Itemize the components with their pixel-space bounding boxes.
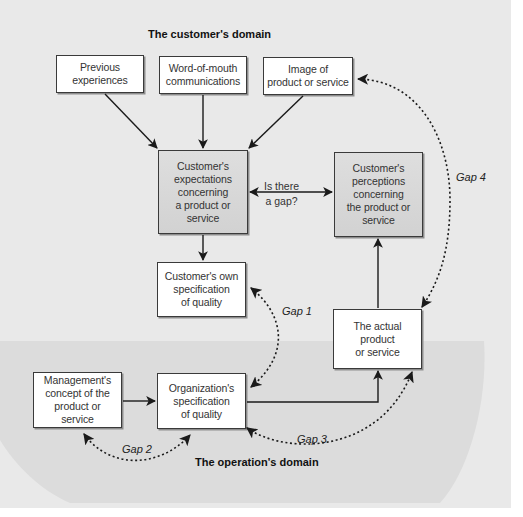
operation-domain-title: The operation's domain bbox=[195, 456, 319, 468]
box-text: or service bbox=[353, 346, 401, 359]
gap-4-label: Gap 4 bbox=[456, 171, 486, 183]
box-text: product or service bbox=[37, 400, 118, 426]
box-text: concerning bbox=[347, 188, 410, 201]
box-text: specification bbox=[169, 395, 234, 408]
customer-perceptions-box: Customer's perceptions concerning the pr… bbox=[334, 152, 423, 237]
image-of-product-box: Image of product or service bbox=[263, 57, 353, 95]
actual-product-box: The actual product or service bbox=[333, 309, 422, 369]
gap-3-label: Gap 3 bbox=[297, 433, 327, 445]
box-text: the product or bbox=[347, 201, 410, 214]
box-text: Previous bbox=[72, 61, 128, 74]
box-text: concerning bbox=[174, 186, 232, 199]
box-text: concept of the bbox=[37, 387, 118, 400]
gap-model-diagram: The customer's domain The operation's do… bbox=[0, 0, 523, 517]
box-text: of quality bbox=[169, 408, 234, 421]
box-text: product or service bbox=[267, 76, 349, 89]
box-text: The actual bbox=[353, 320, 401, 333]
customer-domain-title: The customer's domain bbox=[148, 28, 271, 40]
is-there-a-gap-label: Is there a gap? bbox=[264, 179, 299, 209]
previous-experiences-box: Previous experiences bbox=[56, 55, 144, 93]
customer-own-specification-box: Customer's own specification of quality bbox=[157, 262, 246, 317]
box-text: Customer's bbox=[174, 160, 232, 173]
management-concept-box: Management's concept of the product or s… bbox=[33, 372, 122, 428]
box-text: a product or bbox=[174, 199, 232, 212]
gap-1-label: Gap 1 bbox=[282, 305, 312, 317]
word-of-mouth-box: Word-of-mouth communications bbox=[159, 56, 247, 94]
box-text: perceptions bbox=[347, 175, 410, 188]
box-text: Management's bbox=[37, 374, 118, 387]
gap-2-label: Gap 2 bbox=[122, 443, 152, 455]
customer-expectations-box: Customer's expectations concerning a pro… bbox=[158, 150, 248, 234]
box-text: specification bbox=[165, 283, 239, 296]
box-text: Word-of-mouth bbox=[166, 62, 240, 75]
box-text: product bbox=[353, 333, 401, 346]
question-line-1: Is there bbox=[264, 179, 299, 194]
organization-specification-box: Organization's specification of quality bbox=[157, 373, 246, 429]
question-line-2: a gap? bbox=[264, 194, 299, 209]
box-text: Customer's own bbox=[165, 270, 239, 283]
box-text: of quality bbox=[165, 296, 239, 309]
box-text: service bbox=[174, 212, 232, 225]
box-text: Image of bbox=[267, 63, 349, 76]
box-text: service bbox=[347, 214, 410, 227]
box-text: experiences bbox=[72, 74, 128, 87]
box-text: Customer's bbox=[347, 162, 410, 175]
box-text: expectations bbox=[174, 173, 232, 186]
box-text: Organization's bbox=[169, 382, 234, 395]
box-text: communications bbox=[166, 75, 240, 88]
